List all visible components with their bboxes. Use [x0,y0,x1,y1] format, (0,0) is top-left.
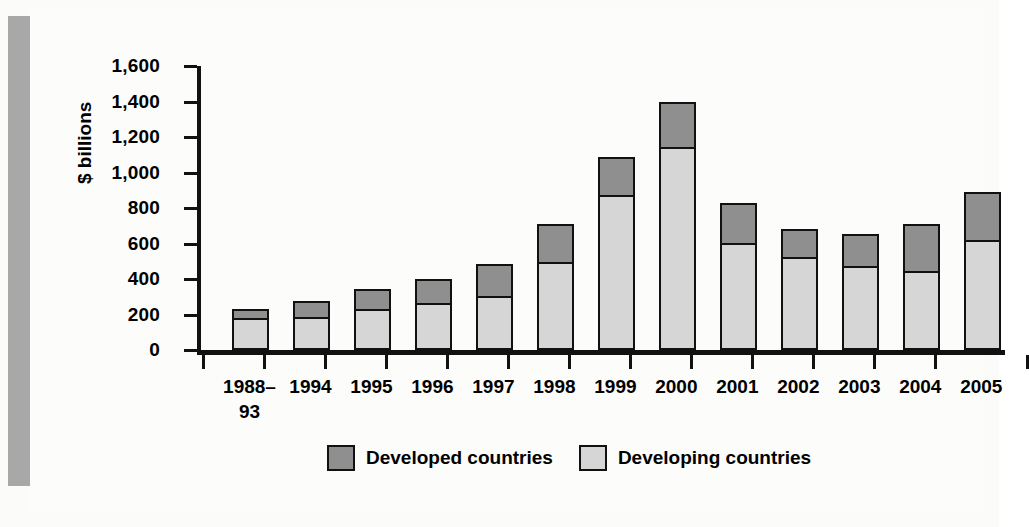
stacked-bar[interactable] [842,234,879,350]
bar-group[interactable] [523,66,585,350]
chart-legend: Developed countriesDeveloping countries [327,445,811,471]
x-axis-tick [446,355,449,369]
y-axis-tick-label: 1,200 [111,126,160,148]
bar-group[interactable] [645,66,707,350]
x-axis-tick [202,355,205,369]
legend-swatch-developed [327,445,355,471]
bar-segment-developed[interactable] [234,311,267,321]
legend-label: Developing countries [618,447,811,469]
stacked-bar[interactable] [781,229,818,350]
legend-swatch-developing [579,445,607,471]
plot-area: 1988– 9319941995199619971998199920002001… [197,66,1002,350]
bar-segment-developing[interactable] [539,264,572,348]
y-axis-tick-label: 1,600 [111,55,160,77]
bar-segment-developing[interactable] [844,268,877,348]
stacked-bar[interactable] [659,102,696,350]
bar-segment-developed[interactable] [417,281,450,305]
x-axis-tick [690,355,693,369]
x-axis-line [197,350,1005,355]
bar-group[interactable] [462,66,524,350]
bar-segment-developing[interactable] [783,259,816,348]
legend-item[interactable]: Developed countries [327,445,553,471]
y-axis-tick [184,101,197,104]
stacked-bar[interactable] [293,301,330,350]
y-axis-tick [184,172,197,175]
y-axis-line [197,66,201,350]
stacked-bar[interactable] [903,224,940,350]
bar-segment-developed[interactable] [539,226,572,263]
y-axis-tick [184,314,197,317]
bar-segment-developed[interactable] [905,226,938,273]
x-axis-tick [507,355,510,369]
y-axis-tick-label: 200 [128,304,160,326]
chart-plate: $ billions 02004006008001,0001,2001,4001… [30,8,985,513]
bar-group[interactable] [828,66,890,350]
bar-group[interactable] [279,66,341,350]
legend-item[interactable]: Developing countries [579,445,811,471]
y-axis-tick [184,243,197,246]
bar-segment-developing[interactable] [966,242,999,349]
bar-segment-developed[interactable] [356,291,389,311]
stacked-bar[interactable] [354,289,391,350]
y-axis-tick [184,349,197,352]
bar-segment-developed[interactable] [844,236,877,268]
bar-segment-developing[interactable] [600,197,633,348]
legend-label: Developed countries [366,447,553,469]
bar-segment-developing[interactable] [722,245,755,348]
bar-segment-developed[interactable] [966,194,999,241]
y-axis-tick-label: 1,000 [111,162,160,184]
y-axis-tick [184,136,197,139]
x-axis-tick [1026,355,1029,369]
x-axis-tick [324,355,327,369]
bar-segment-developed[interactable] [295,303,328,319]
bar-group[interactable] [584,66,646,350]
bar-segment-developing[interactable] [356,311,389,348]
stacked-bar[interactable] [964,192,1001,350]
bar-group[interactable] [889,66,951,350]
y-axis-tick-label: 1,400 [111,91,160,113]
y-axis-tick [184,278,197,281]
x-axis-tick [812,355,815,369]
y-axis-tick-labels: 02004006008001,0001,2001,4001,600 [8,66,160,350]
y-axis-tick-label: 400 [128,268,160,290]
bar-segment-developed[interactable] [661,104,694,149]
stacked-bar[interactable] [415,279,452,350]
x-axis-tick [568,355,571,369]
stacked-bar[interactable] [232,309,269,350]
y-axis-tick-label: 600 [128,233,160,255]
bar-group[interactable] [706,66,768,350]
x-axis-tick [629,355,632,369]
bar-segment-developed[interactable] [783,231,816,259]
bar-group[interactable] [218,66,280,350]
y-axis-tick [184,65,197,68]
x-axis-tick [751,355,754,369]
bar-segment-developing[interactable] [234,320,267,348]
bar-segment-developed[interactable] [600,159,633,197]
bar-segment-developing[interactable] [905,273,938,348]
y-axis-tick-label: 800 [128,197,160,219]
bar-segment-developing[interactable] [417,305,450,348]
bar-segment-developed[interactable] [478,266,511,298]
bar-segment-developed[interactable] [722,205,755,245]
y-axis-tick [184,207,197,210]
bar-group[interactable] [767,66,829,350]
bar-group[interactable] [950,66,1012,350]
bar-group[interactable] [401,66,463,350]
stacked-bar[interactable] [476,264,513,350]
x-axis-tick-label: 2005 [938,374,1024,399]
x-axis-tick [873,355,876,369]
x-axis-tick [934,355,937,369]
bar-segment-developing[interactable] [661,149,694,348]
bar-segment-developing[interactable] [295,319,328,348]
x-axis-tick [385,355,388,369]
stacked-bar[interactable] [598,157,635,350]
x-axis-tick [263,355,266,369]
bar-group[interactable] [340,66,402,350]
y-axis-tick-label: 0 [149,339,160,361]
stacked-bar[interactable] [537,224,574,350]
bar-segment-developing[interactable] [478,298,511,348]
stacked-bar[interactable] [720,203,757,350]
